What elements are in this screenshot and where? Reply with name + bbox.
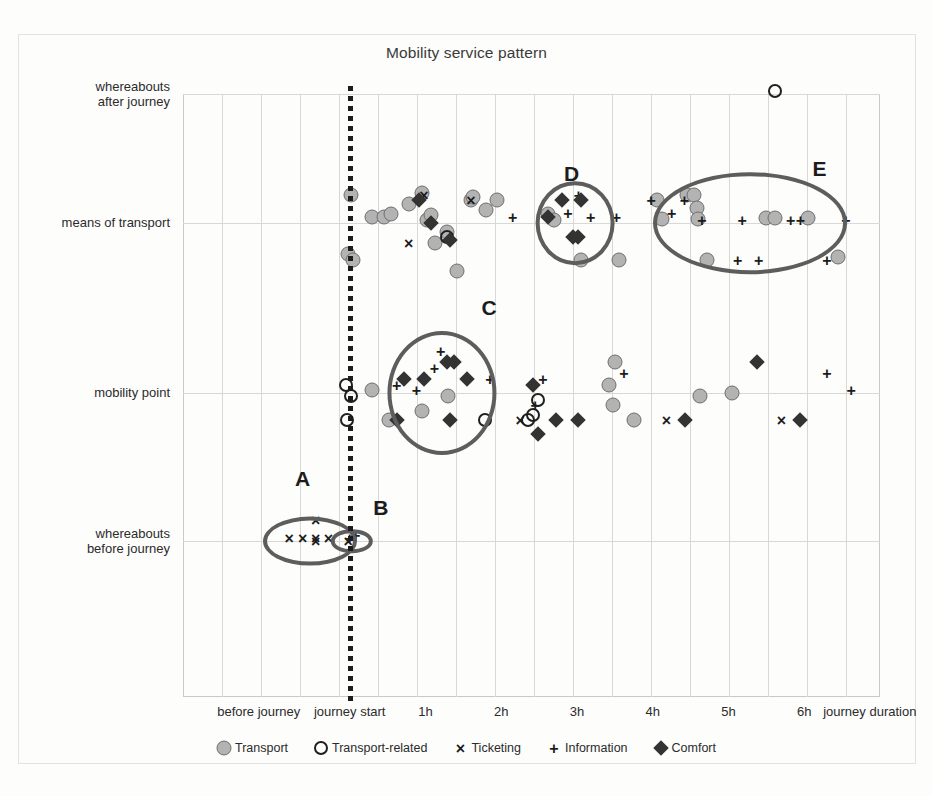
legend-marker [314,741,328,755]
legend-marker [654,741,668,755]
grid-line-vertical [222,94,223,697]
mark-information: + [819,365,834,380]
mark-transport [450,263,465,278]
mark-ticketing: × [513,412,528,427]
legend-label: Information [565,741,628,755]
mark-transport [490,192,505,207]
mark-transport-related [768,84,782,98]
mark-ticketing: × [463,192,478,207]
legend-marker [217,741,231,755]
x-axis-tick-label: journey start [314,704,386,719]
mark-information: + [528,397,543,412]
cluster-label-b: B [373,496,388,520]
x-axis-tick-label: 4h [645,704,659,719]
mark-transport [626,412,641,427]
y-axis-label: means of transport [20,215,170,230]
legend-label: Transport-related [332,741,427,755]
journey-start-line [348,86,353,701]
cluster-outline-e [653,172,847,274]
y-axis-label: whereaboutsafter journey [20,79,170,109]
x-axis-title: journey duration [823,704,916,719]
cluster-label-c: C [481,296,496,320]
chart-title: Mobility service pattern [0,44,933,62]
grid-line-vertical [651,94,652,697]
mark-ticketing: × [774,412,789,427]
cluster-label-d: D [564,162,579,186]
x-axis-tick-label: 3h [570,704,584,719]
mark-ticketing: × [659,412,674,427]
x-axis-tick-label: before journey [217,704,300,719]
legend-marker: + [547,741,561,755]
mark-transport [606,397,621,412]
mark-information: + [547,741,562,756]
chart-legend: TransportTransport-related×Ticketing+Inf… [0,741,933,755]
mark-transport [601,377,616,392]
chart-page: Mobility service pattern ×××××××××××××++… [0,0,933,796]
mark-ticketing: × [401,236,416,251]
legend-item[interactable]: Transport-related [314,741,427,755]
mark-comfort [653,740,669,756]
y-axis-label: mobility point [20,385,170,400]
cluster-outline-c [388,331,497,455]
legend-item[interactable]: Comfort [654,741,716,755]
legend-label: Ticketing [471,741,521,755]
legend-item[interactable]: Transport [217,741,288,755]
legend-label: Transport [235,741,288,755]
grid-line-horizontal [183,393,880,394]
legend-item[interactable]: ×Ticketing [453,741,521,755]
mark-transport [692,388,707,403]
grid-line-vertical [612,94,613,697]
mark-information: + [505,209,520,224]
x-axis-tick-label: 6h [797,704,811,719]
y-axis-label: whereaboutsbefore journey [20,526,170,556]
legend-item[interactable]: +Information [547,741,628,755]
x-axis-tick-label: 1h [418,704,432,719]
mark-transport [725,386,740,401]
mark-transport [384,206,399,221]
x-axis-tick-label: 2h [494,704,508,719]
cluster-label-e: E [812,157,826,181]
grid-line-vertical [300,94,301,697]
mark-ticketing: × [453,741,468,756]
mark-information: + [644,192,659,207]
x-axis-tick-label: 5h [721,704,735,719]
cluster-label-a: A [295,467,310,491]
cluster-outline-d [536,181,615,265]
mark-information: + [844,382,859,397]
legend-marker: × [453,741,467,755]
mark-information: + [616,365,631,380]
mark-transport-related [314,741,328,755]
grid-line-vertical [261,94,262,697]
mark-transport [611,253,626,268]
mark-transport [365,382,380,397]
legend-label: Comfort [672,741,716,755]
mark-transport [217,741,232,756]
grid-line-vertical [378,94,379,697]
grid-line-vertical [339,94,340,697]
plot-area: ×××××××××××××+++++++++++++++++++++++++++… [183,94,880,697]
